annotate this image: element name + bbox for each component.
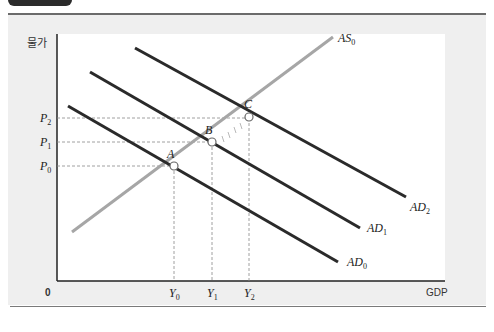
y2-label: Y2: [244, 286, 255, 302]
point-b-label: B: [205, 123, 213, 137]
p2-label: P2: [39, 111, 51, 127]
x-axis-label: GDP: [426, 287, 448, 298]
point-b-marker: [208, 138, 216, 146]
point-c-label: C: [244, 97, 253, 111]
y1-label: Y1: [207, 286, 218, 302]
point-a-label: A: [166, 147, 175, 161]
plot-area: [57, 34, 445, 281]
origin-label: 0: [45, 287, 51, 298]
point-c-marker: [245, 113, 253, 121]
y-axis-label: 물가: [27, 37, 47, 50]
p0-label: P0: [39, 159, 51, 175]
point-a-marker: [170, 162, 178, 170]
y0-label: Y0: [169, 286, 180, 302]
p1-label: P1: [39, 135, 51, 151]
ad-as-diagram: A B C 물가 GDP 0 P0 P1 P2 Y0 Y1 Y2 AS0 AD2…: [0, 0, 494, 332]
as0-label: AS0: [337, 31, 355, 47]
